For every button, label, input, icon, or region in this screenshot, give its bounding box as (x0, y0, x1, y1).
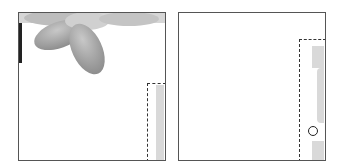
circle-marker[interactable] (308, 126, 318, 136)
left-panel (18, 12, 166, 161)
right-panel (178, 12, 326, 161)
selection-box[interactable] (299, 39, 326, 161)
flower-image (19, 13, 166, 83)
selection-box[interactable] (147, 83, 166, 161)
image-edge-bar (19, 23, 22, 63)
